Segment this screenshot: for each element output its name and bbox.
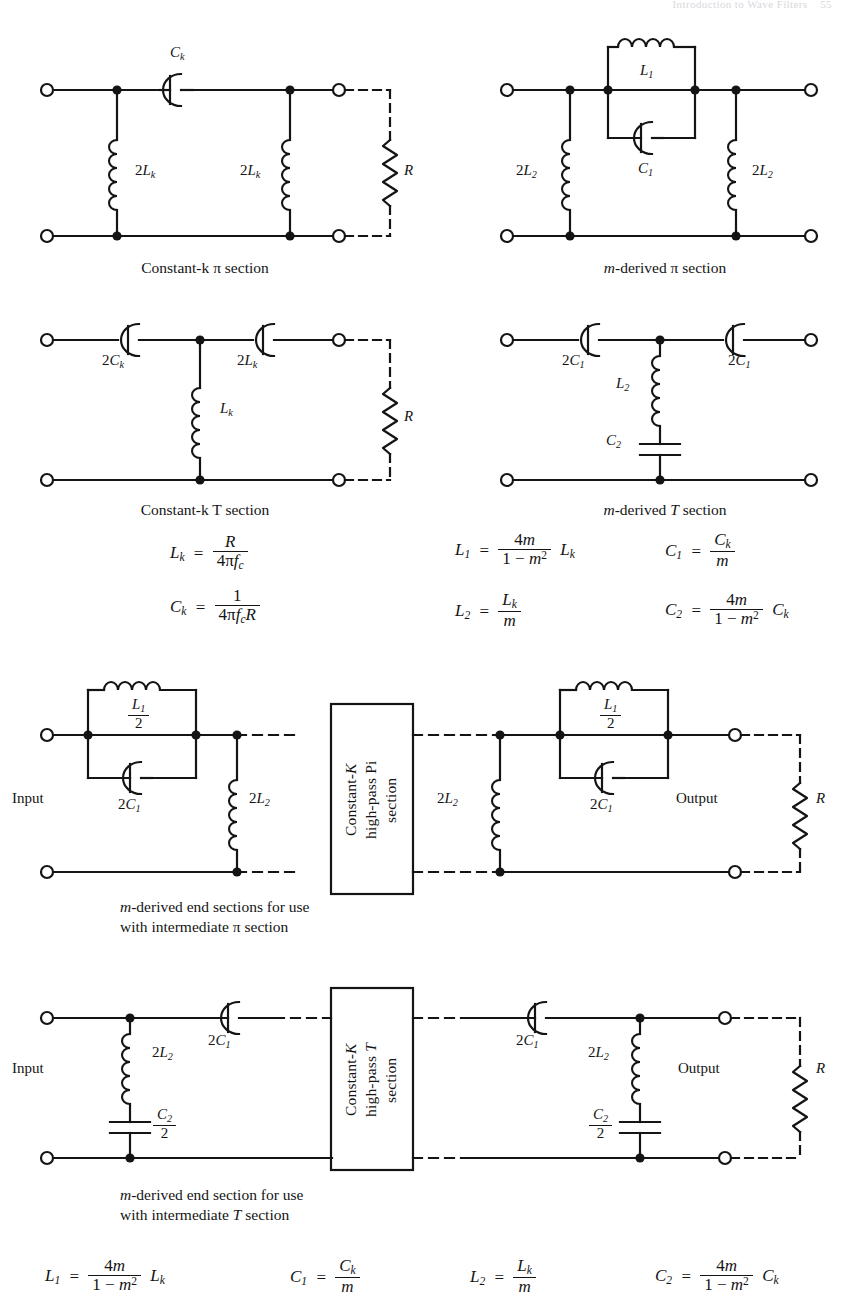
caption-m-derived-end-t: m-derived end section for usewith interm… [120,1185,520,1226]
label-2c1-left-panel5: 2C1 [118,796,141,814]
label-2l2-right: 2L2 [752,162,773,180]
caption-m-derived-end-pi: m-derived end sections for usewith inter… [120,897,520,938]
equation-l1-mid: L1 = 4m 1 − m2 Lk [455,532,575,569]
label-2l2-left: 2L2 [516,162,537,180]
label-l1-panel2: L1 [640,62,653,80]
equation-c1-bottom: C1 = Ck m [290,1258,360,1298]
label-2ck-left: 2Ck [102,352,124,370]
label-l1-over-2-right: L1 2 [600,698,621,733]
label-r-panel3: R [404,408,413,425]
equation-c2-bottom: C2 = 4m 1 − m2 Ck [655,1258,779,1295]
label-input-panel6: Input [12,1060,44,1077]
box-label-constant-k-high-pass-t: Constant-Khigh-pass Tsection [341,996,403,1164]
caption-m-derived-pi: m-derived π section [520,258,810,278]
label-2c1-left-panel6: 2C1 [208,1032,231,1050]
circuit-artwork [0,0,856,1316]
caption-m-derived-t: m-derived T section [520,500,810,520]
label-lk: Lk [220,400,233,418]
label-2c1-left: 2C1 [562,352,585,370]
label-l1-over-2-left: L1 2 [128,698,149,733]
label-c2: C2 [606,432,621,450]
figure-page: Introduction to Wave Filters 55 [0,0,856,1316]
label-2c1-right-panel5: 2C1 [590,796,613,814]
box-label-constant-k-high-pass-pi: Constant-Khigh-pass Pisection [341,712,403,888]
label-c1-panel2: C1 [638,160,653,178]
equation-c1-mid: C1 = Ck m [665,532,735,572]
label-input-panel5: Input [12,790,44,807]
label-c2-over-2-right: C2 2 [589,1108,612,1143]
caption-constant-k-pi: Constant-k π section [60,258,350,278]
equation-l2-bottom: L2 = Lk m [470,1258,536,1298]
label-r-panel5: R [816,790,825,807]
label-2c1-right-panel6: 2C1 [516,1032,539,1050]
label-r-panel6: R [816,1060,825,1077]
equation-lk: Lk = R 4πfc [170,534,248,574]
label-output-panel5: Output [676,790,718,807]
label-2lk-left: 2Lk [135,162,155,180]
label-2l2-left-panel5: 2L2 [249,790,270,808]
equation-ck: Ck = 1 4πfcR [170,588,260,628]
caption-constant-k-t: Constant-k T section [60,500,350,520]
label-output-panel6: Output [678,1060,720,1077]
label-c2-over-2-left: C2 2 [153,1108,176,1143]
equation-l2-mid: L2 = Lk m [455,592,521,632]
label-2l2-right-panel6: 2L2 [588,1044,609,1062]
label-ck: Ck [170,44,185,62]
label-2l2-right-panel5: 2L2 [437,790,458,808]
label-2l2-left-panel6: 2L2 [152,1044,173,1062]
equation-l1-bottom: L1 = 4m 1 − m2 Lk [45,1258,165,1295]
label-2ck-right: 2Lk [237,352,257,370]
equation-c2-mid: C2 = 4m 1 − m2 Ck [665,592,789,629]
label-2c1-right: 2C1 [728,352,751,370]
label-l2: L2 [616,375,629,393]
label-r-panel1: R [404,162,413,179]
label-2lk-right: 2Lk [240,162,260,180]
